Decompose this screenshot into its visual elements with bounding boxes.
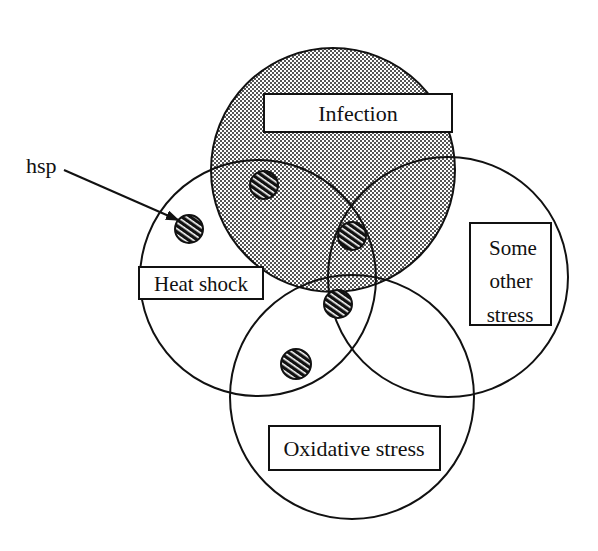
infection-label: Infection bbox=[318, 101, 397, 126]
hsp-arrow bbox=[64, 170, 178, 220]
heat-shock-label: Heat shock bbox=[154, 272, 248, 296]
infection-label-box: Infection bbox=[264, 94, 452, 132]
hsp-dot-heat-shock bbox=[175, 215, 203, 243]
hsp-dot-infection-heat-other bbox=[338, 222, 366, 250]
venn-diagram: Infection Heat shock Some other stress O… bbox=[0, 0, 598, 551]
hsp-dot-heat-oxidative bbox=[281, 349, 311, 379]
hsp-label: hsp bbox=[26, 153, 57, 178]
hsp-dot-infection-heat bbox=[250, 171, 278, 199]
other-stress-label-box: Some other stress bbox=[470, 223, 551, 327]
other-stress-label-line1: Some bbox=[489, 236, 537, 260]
heat-shock-label-box: Heat shock bbox=[139, 267, 263, 299]
other-stress-label-line2: other bbox=[489, 269, 532, 293]
hsp-dot-center bbox=[324, 290, 352, 318]
other-stress-label-line3: stress bbox=[487, 303, 534, 327]
infection-circle bbox=[211, 48, 455, 292]
oxidative-stress-label: Oxidative stress bbox=[283, 436, 424, 461]
oxidative-stress-label-box: Oxidative stress bbox=[269, 426, 440, 470]
